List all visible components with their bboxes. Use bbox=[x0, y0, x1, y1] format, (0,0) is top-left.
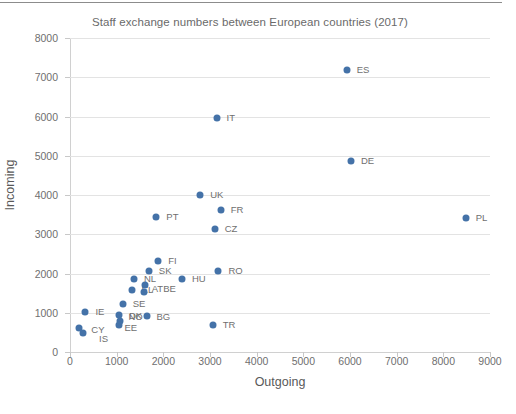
x-tick-mark bbox=[117, 352, 118, 357]
data-point-label: RO bbox=[228, 266, 242, 276]
x-tick-label: 0 bbox=[47, 356, 93, 367]
y-tick-mark bbox=[65, 117, 70, 118]
data-point-label: BG bbox=[157, 312, 171, 322]
data-point-marker[interactable] bbox=[140, 288, 147, 295]
y-tick-label: 5000 bbox=[14, 151, 58, 161]
x-tick-mark bbox=[210, 352, 211, 357]
x-tick-label: 6000 bbox=[327, 356, 373, 367]
data-point-label: IS bbox=[99, 334, 108, 344]
data-point-marker[interactable] bbox=[197, 192, 204, 199]
scatter-chart: Staff exchange numbers between European … bbox=[0, 0, 516, 414]
data-point-marker[interactable] bbox=[142, 282, 149, 289]
x-tick-mark bbox=[257, 352, 258, 357]
y-tick-label: 1000 bbox=[14, 308, 58, 318]
x-tick-mark bbox=[490, 352, 491, 357]
data-point-marker[interactable] bbox=[211, 226, 218, 233]
data-point-label: IE bbox=[95, 307, 104, 317]
y-tick-label: 2000 bbox=[14, 269, 58, 279]
x-tick-label: 8000 bbox=[420, 356, 466, 367]
data-point-marker[interactable] bbox=[155, 257, 162, 264]
data-point-label: ES bbox=[357, 65, 370, 75]
data-point-label: UK bbox=[210, 190, 223, 200]
gridline-horizontal bbox=[70, 77, 490, 78]
y-tick-mark bbox=[65, 274, 70, 275]
data-point-label: CZ bbox=[225, 224, 238, 234]
x-tick-mark bbox=[397, 352, 398, 357]
y-tick-mark bbox=[65, 313, 70, 314]
data-point-label: TR bbox=[223, 320, 236, 330]
data-point-marker[interactable] bbox=[119, 300, 126, 307]
data-point-marker[interactable] bbox=[130, 275, 137, 282]
gridline-horizontal bbox=[70, 156, 490, 157]
data-point-label: BE bbox=[163, 284, 176, 294]
y-tick-mark bbox=[65, 234, 70, 235]
y-tick-label: 7000 bbox=[14, 72, 58, 82]
data-point-label: SK bbox=[159, 266, 172, 276]
top-divider bbox=[0, 2, 502, 3]
y-tick-label: 6000 bbox=[14, 112, 58, 122]
gridline-horizontal bbox=[70, 234, 490, 235]
x-tick-mark bbox=[350, 352, 351, 357]
x-tick-label: 1000 bbox=[94, 356, 140, 367]
x-axis-line bbox=[70, 352, 490, 353]
data-point-marker[interactable] bbox=[343, 67, 350, 74]
x-tick-mark bbox=[443, 352, 444, 357]
y-axis-title: Incoming bbox=[3, 115, 17, 255]
x-tick-mark bbox=[303, 352, 304, 357]
data-point-label: IT bbox=[227, 113, 235, 123]
x-axis-title: Outgoing bbox=[70, 375, 490, 389]
data-point-marker[interactable] bbox=[215, 268, 222, 275]
data-point-label: PT bbox=[166, 212, 178, 222]
y-tick-label: 8000 bbox=[14, 33, 58, 43]
data-point-marker[interactable] bbox=[82, 308, 89, 315]
data-point-label: NO bbox=[128, 312, 142, 322]
y-tick-mark bbox=[65, 77, 70, 78]
data-point-label: FR bbox=[231, 205, 244, 215]
data-point-marker[interactable] bbox=[153, 213, 160, 220]
x-tick-label: 5000 bbox=[280, 356, 326, 367]
data-point-label: PL bbox=[476, 213, 488, 223]
data-point-label: DE bbox=[361, 156, 374, 166]
y-tick-mark bbox=[65, 195, 70, 196]
x-tick-label: 9000 bbox=[467, 356, 513, 367]
data-point-label: HU bbox=[192, 274, 206, 284]
gridline-horizontal bbox=[70, 195, 490, 196]
gridline-horizontal bbox=[70, 117, 490, 118]
x-tick-label: 3000 bbox=[187, 356, 233, 367]
data-point-marker[interactable] bbox=[209, 321, 216, 328]
data-point-marker[interactable] bbox=[347, 158, 354, 165]
data-point-marker[interactable] bbox=[143, 312, 150, 319]
data-point-marker[interactable] bbox=[115, 322, 122, 329]
data-point-label: EE bbox=[125, 323, 138, 333]
data-point-marker[interactable] bbox=[80, 329, 87, 336]
y-tick-label: 4000 bbox=[14, 190, 58, 200]
y-tick-label: 3000 bbox=[14, 229, 58, 239]
x-tick-label: 7000 bbox=[374, 356, 420, 367]
data-point-marker[interactable] bbox=[179, 276, 186, 283]
data-point-label: SE bbox=[133, 299, 146, 309]
x-tick-label: 4000 bbox=[234, 356, 280, 367]
plot-area: ESITDEUKFRPLPTCZFISKROHUNLELATBESEBGDKNO… bbox=[70, 38, 490, 352]
data-point-marker[interactable] bbox=[128, 287, 135, 294]
data-point-label: AT bbox=[152, 284, 163, 294]
data-point-marker[interactable] bbox=[217, 206, 224, 213]
data-point-marker[interactable] bbox=[462, 214, 469, 221]
x-tick-mark bbox=[70, 352, 71, 357]
y-tick-mark bbox=[65, 156, 70, 157]
data-point-marker[interactable] bbox=[213, 114, 220, 121]
y-tick-mark bbox=[65, 38, 70, 39]
gridline-horizontal bbox=[70, 38, 490, 39]
chart-title: Staff exchange numbers between European … bbox=[0, 16, 500, 28]
x-tick-mark bbox=[163, 352, 164, 357]
x-tick-label: 2000 bbox=[140, 356, 186, 367]
